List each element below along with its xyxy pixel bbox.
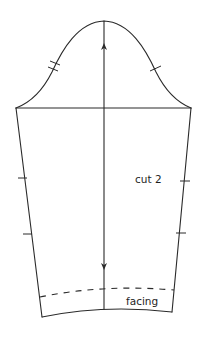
- back-double-notch: [48, 61, 60, 71]
- left-side-seam: [16, 108, 42, 317]
- facing-label: facing: [126, 295, 158, 307]
- right-side-seam: [172, 108, 191, 312]
- sleeve-pattern-diagram: cut 2 facing: [0, 0, 201, 340]
- hem-line: [42, 309, 172, 317]
- cut-instruction-label: cut 2: [135, 173, 162, 185]
